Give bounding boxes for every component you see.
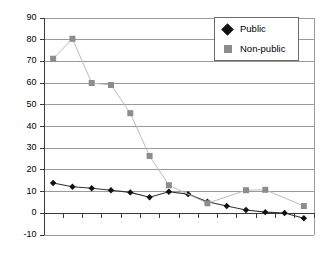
legend-entry-non-public[interactable]: Non-public	[222, 42, 285, 56]
data-point[interactable]	[69, 184, 75, 190]
line-chart: 9080706050403020100-10 Public Non-public	[0, 0, 331, 256]
data-point[interactable]	[108, 82, 114, 88]
data-point[interactable]	[108, 187, 114, 193]
series-non-public	[50, 36, 307, 209]
legend-entry-public[interactable]: Public	[222, 22, 266, 36]
data-point[interactable]	[224, 203, 230, 209]
diamond-marker-icon	[222, 24, 233, 35]
data-point[interactable]	[262, 187, 268, 193]
data-point[interactable]	[127, 189, 133, 195]
data-point[interactable]	[262, 209, 268, 215]
data-point[interactable]	[50, 56, 56, 62]
data-point[interactable]	[281, 210, 287, 216]
data-point[interactable]	[166, 182, 172, 188]
data-point[interactable]	[69, 36, 75, 42]
square-marker-icon	[222, 44, 233, 55]
series-public	[50, 180, 307, 222]
data-point[interactable]	[147, 153, 153, 159]
data-point[interactable]	[243, 207, 249, 213]
data-point[interactable]	[243, 187, 249, 193]
data-point[interactable]	[89, 80, 95, 86]
data-point[interactable]	[127, 110, 133, 116]
data-point[interactable]	[301, 215, 307, 221]
data-point[interactable]	[50, 180, 56, 186]
data-point[interactable]	[166, 189, 172, 195]
data-point[interactable]	[146, 194, 152, 200]
legend-label-non-public: Non-public	[240, 44, 285, 54]
data-point[interactable]	[89, 185, 95, 191]
data-point[interactable]	[301, 203, 307, 209]
legend-label-public: Public	[240, 24, 266, 34]
series-line	[53, 39, 304, 206]
chart-legend: Public Non-public	[214, 17, 299, 61]
data-point[interactable]	[204, 200, 210, 206]
